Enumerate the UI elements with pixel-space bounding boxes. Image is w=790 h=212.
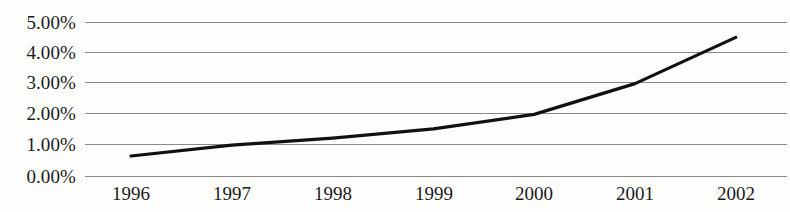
x-axis: 1996 1997 1998 1999 2000 2001 2002 (0, 183, 790, 212)
plot-area (85, 22, 787, 176)
line-chart: 5.00% 4.00% 3.00% 2.00% 1.00% 0.00% 1996… (0, 0, 790, 212)
gridline-5 (85, 22, 787, 23)
x-tick-label-1999: 1999 (389, 183, 479, 205)
gridline-1 (85, 144, 787, 145)
x-tick-label-1998: 1998 (288, 183, 378, 205)
gridline-4 (85, 52, 787, 53)
y-axis: 5.00% 4.00% 3.00% 2.00% 1.00% 0.00% (0, 0, 76, 212)
gridline-2 (85, 113, 787, 114)
x-tick-label-2002: 2002 (691, 183, 781, 205)
gridline-0 (85, 176, 787, 177)
y-tick-label-4: 4.00% (0, 43, 76, 62)
x-tick-label-2000: 2000 (489, 183, 579, 205)
y-tick-label-5: 5.00% (0, 13, 76, 32)
y-tick-label-1: 1.00% (0, 135, 76, 154)
x-tick-label-1996: 1996 (86, 183, 176, 205)
y-tick-label-2: 2.00% (0, 104, 76, 123)
x-tick-label-2001: 2001 (590, 183, 680, 205)
y-tick-label-3: 3.00% (0, 73, 76, 92)
x-tick-label-1997: 1997 (187, 183, 277, 205)
gridline-3 (85, 82, 787, 83)
